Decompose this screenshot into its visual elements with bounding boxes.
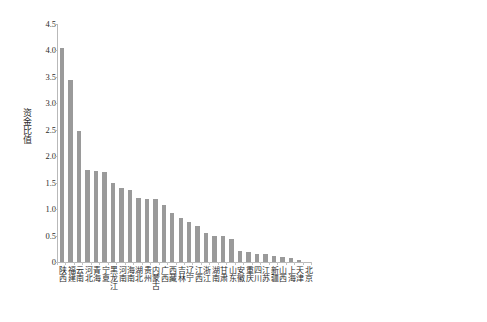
y-axis-tick-mark — [55, 103, 58, 104]
x-axis-tick-mark — [277, 262, 278, 265]
x-axis-tick-mark — [116, 262, 117, 265]
x-axis-tick-mark — [159, 262, 160, 265]
bar — [85, 170, 89, 262]
bar — [229, 239, 233, 262]
x-axis-tick-mark — [125, 262, 126, 265]
y-axis-tick-label: 0 — [30, 257, 56, 267]
y-axis-tick-labels: 4.54.03.53.02.52.01.51.00.50 — [30, 0, 56, 322]
bar — [195, 226, 199, 262]
y-axis-tick-label: 1.5 — [30, 178, 56, 188]
x-axis-tick-mark — [192, 262, 193, 265]
x-axis-tick-label: 河南 — [117, 266, 126, 282]
x-axis-tick-mark — [311, 262, 312, 265]
bar — [221, 236, 225, 262]
x-axis-tick-mark — [99, 262, 100, 265]
bar — [238, 251, 242, 262]
x-axis-tick-label: 福建 — [66, 266, 75, 282]
x-axis-tick-mark — [218, 262, 219, 265]
x-axis-tick-mark — [184, 262, 185, 265]
y-axis-tick-mark — [55, 130, 58, 131]
x-axis-tick-mark — [57, 262, 58, 265]
x-axis-tick-mark — [167, 262, 168, 265]
x-axis-tick-label: 天津 — [294, 266, 303, 282]
x-axis-tick-mark — [74, 262, 75, 265]
x-axis-tick-label: 湖北 — [133, 266, 142, 282]
bar — [128, 190, 132, 262]
y-axis-tick-label: 4.5 — [30, 19, 56, 29]
y-axis-tick-label: 3.5 — [30, 72, 56, 82]
y-axis-tick-label: 0.5 — [30, 231, 56, 241]
x-axis-tick-label: 云南 — [74, 266, 83, 282]
bar — [145, 199, 149, 262]
x-axis-tick-label: 新疆 — [269, 266, 278, 282]
plot-area — [57, 24, 312, 262]
x-axis-tick-label: 辽宁 — [184, 266, 193, 282]
y-axis-tick-mark — [55, 50, 58, 51]
x-axis-tick-label: 北京 — [303, 266, 312, 282]
x-axis-tick-label: 湖南 — [210, 266, 219, 282]
bar — [263, 254, 267, 262]
bar — [94, 171, 98, 262]
x-axis-tick-label: 重庆 — [244, 266, 253, 282]
x-axis-tick-label: 安徽 — [235, 266, 244, 282]
x-axis-tick-mark — [91, 262, 92, 265]
y-axis-tick-label: 1.0 — [30, 204, 56, 214]
x-axis-tick-label: 广西 — [159, 266, 168, 282]
y-axis-tick-mark — [55, 209, 58, 210]
bar — [187, 222, 191, 262]
x-axis-tick-label: 江苏 — [260, 266, 269, 282]
x-axis-tick-mark — [176, 262, 177, 265]
x-axis-tick-label: 上海 — [286, 266, 295, 282]
bar — [60, 48, 64, 262]
y-axis-tick-mark — [55, 77, 58, 78]
bar — [111, 183, 115, 262]
x-axis-tick-label: 黑龙江 — [108, 266, 117, 290]
bar — [170, 213, 174, 262]
x-axis-tick-label: 海南 — [125, 266, 134, 282]
x-axis-tick-label: 宁夏 — [100, 266, 109, 282]
bar-chart: 资金比值 4.54.03.53.02.52.01.51.00.50 陕西福建云南… — [0, 0, 487, 322]
x-axis-tick-mark — [108, 262, 109, 265]
x-axis-tick-mark — [65, 262, 66, 265]
bar — [102, 172, 106, 262]
y-axis-tick-label: 2.0 — [30, 151, 56, 161]
x-axis-tick-mark — [235, 262, 236, 265]
y-axis-tick-mark — [55, 156, 58, 157]
x-axis-tick-mark — [226, 262, 227, 265]
x-axis-tick-label: 陕西 — [57, 266, 66, 282]
bar — [68, 80, 72, 262]
x-axis-tick-label: 山东 — [227, 266, 236, 282]
y-axis-tick-label: 2.5 — [30, 125, 56, 135]
y-axis-tick-mark — [55, 236, 58, 237]
x-axis-tick-label: 贵州 — [142, 266, 151, 282]
x-axis-tick-label: 青海 — [91, 266, 100, 282]
x-axis-tick-mark — [252, 262, 253, 265]
bar — [204, 233, 208, 262]
x-axis-tick-mark — [201, 262, 202, 265]
x-axis-tick-label: 江西 — [193, 266, 202, 282]
bar — [246, 252, 250, 262]
bar — [119, 188, 123, 262]
x-axis-tick-mark — [286, 262, 287, 265]
bar — [77, 131, 81, 262]
x-axis-tick-mark — [82, 262, 83, 265]
x-axis-tick-mark — [243, 262, 244, 265]
x-axis-tick-mark — [150, 262, 151, 265]
bar — [153, 199, 157, 262]
x-axis-tick-label: 内蒙古 — [150, 266, 159, 290]
y-axis-tick-mark — [55, 183, 58, 184]
x-axis-tick-label: 山西 — [277, 266, 286, 282]
x-axis-tick-label: 甘肃 — [218, 266, 227, 282]
x-axis-tick-label: 河北 — [83, 266, 92, 282]
x-axis-tick-label: 吉林 — [176, 266, 185, 282]
bar — [179, 218, 183, 262]
y-axis-tick-label: 4.0 — [30, 45, 56, 55]
bar — [162, 205, 166, 262]
x-axis-tick-mark — [142, 262, 143, 265]
x-axis-tick-mark — [209, 262, 210, 265]
x-axis-tick-mark — [260, 262, 261, 265]
x-axis-tick-label: 浙江 — [201, 266, 210, 282]
y-axis-tick-label: 3.0 — [30, 98, 56, 108]
x-axis-tick-label: 四川 — [252, 266, 261, 282]
x-axis-tick-mark — [269, 262, 270, 265]
